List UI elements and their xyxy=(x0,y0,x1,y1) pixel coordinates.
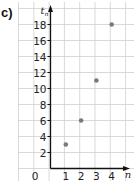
y-tick-label: 4 xyxy=(40,131,47,143)
scatter-chart: 2468101214161812340 tnn xyxy=(0,0,134,181)
y-axis-label-subscript: n xyxy=(45,10,49,17)
y-tick-label: 16 xyxy=(33,35,47,47)
y-tick-label: 18 xyxy=(33,19,46,31)
data-point xyxy=(64,142,69,147)
origin-label: 0 xyxy=(32,170,39,181)
x-axis-label: n xyxy=(125,169,131,180)
y-tick-label: 6 xyxy=(40,115,47,127)
y-tick-label: 14 xyxy=(33,51,47,63)
axes xyxy=(48,5,130,171)
axis-labels: tnn xyxy=(40,5,131,180)
tick-labels: 2468101214161812340 xyxy=(32,19,116,182)
data-point xyxy=(94,78,99,83)
y-tick-label: 10 xyxy=(33,83,46,95)
data-point xyxy=(79,118,84,123)
x-tick-label: 4 xyxy=(108,170,115,181)
y-tick-label: 2 xyxy=(40,147,47,159)
x-tick-label: 1 xyxy=(62,170,69,181)
y-tick-label: 12 xyxy=(33,67,46,79)
y-tick-label: 8 xyxy=(40,99,47,111)
data-point xyxy=(109,22,114,27)
x-tick-label: 3 xyxy=(93,170,100,181)
x-tick-label: 2 xyxy=(78,170,85,181)
